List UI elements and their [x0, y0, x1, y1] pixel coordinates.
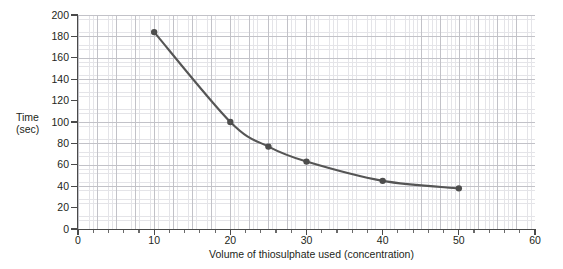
y-axis-tick	[71, 79, 77, 80]
y-axis-tick-label: 60	[31, 159, 69, 170]
x-axis-tick-minor	[443, 230, 444, 233]
y-axis-tick-label: 40	[31, 181, 69, 192]
x-axis-tick-minor	[215, 230, 216, 233]
x-axis-tick-label: 60	[515, 234, 555, 246]
y-axis-tick-label: 80	[31, 138, 69, 149]
data-series-layer	[78, 15, 535, 229]
x-axis-tick-minor	[336, 230, 337, 233]
y-axis-tick-label: 160	[31, 52, 69, 63]
data-point-marker	[151, 29, 157, 35]
x-axis-tick-minor	[352, 230, 353, 233]
y-axis-tick	[71, 121, 77, 122]
x-axis-tick-minor	[321, 230, 322, 233]
data-point-marker	[265, 143, 271, 149]
y-axis-tick	[71, 143, 77, 144]
y-axis-tick-label: 140	[31, 74, 69, 85]
y-axis-line	[77, 14, 78, 230]
y-axis-tick-label: 200	[31, 10, 69, 21]
y-axis-tick-label: 20	[31, 202, 69, 213]
x-axis-tick-label: 40	[363, 234, 403, 246]
x-axis-tick-labels: 0102030405060	[0, 234, 563, 248]
x-axis-tick-minor	[504, 230, 505, 233]
y-axis-tick-label: 0	[31, 224, 69, 235]
series-markers	[151, 29, 462, 192]
chart-container: 020406080100120140160180200 010203040506…	[0, 0, 563, 269]
y-axis-title: Time (sec)	[16, 112, 64, 135]
x-axis-tick-minor	[473, 230, 474, 233]
data-point-marker	[303, 158, 309, 164]
x-axis-tick-minor	[199, 230, 200, 233]
x-axis-tick-minor	[123, 230, 124, 233]
plot-area	[78, 15, 535, 229]
y-axis-tick	[71, 14, 77, 15]
x-axis-tick-minor	[245, 230, 246, 233]
y-axis-tick	[71, 100, 77, 101]
y-axis-tick-label: 180	[31, 31, 69, 42]
series-curve	[154, 32, 459, 188]
x-axis-tick-label: 20	[210, 234, 250, 246]
y-axis-tick	[71, 186, 77, 187]
y-axis-title-line-2: (sec)	[16, 124, 64, 136]
y-axis-title-line-1: Time	[16, 112, 64, 124]
x-axis-tick-minor	[138, 230, 139, 233]
x-axis-tick-label: 50	[439, 234, 479, 246]
x-axis-title-text: Volume of thiosulphate used (concentrati…	[149, 248, 414, 260]
x-axis-tick-minor	[413, 230, 414, 233]
x-axis-tick-minor	[169, 230, 170, 233]
y-axis-tick	[71, 207, 77, 208]
x-axis-tick-minor	[397, 230, 398, 233]
data-point-marker	[227, 119, 233, 125]
y-axis-tick	[71, 36, 77, 37]
x-axis-tick-label: 0	[58, 234, 98, 246]
x-axis-tick-minor	[519, 230, 520, 233]
x-axis-tick-minor	[184, 230, 185, 233]
x-axis-tick-minor	[367, 230, 368, 233]
x-axis-title: Volume of thiosulphate used (concentrati…	[0, 248, 563, 260]
data-point-marker	[456, 185, 462, 191]
x-axis-tick-label: 10	[134, 234, 174, 246]
x-axis-tick-minor	[108, 230, 109, 233]
x-axis-tick-minor	[489, 230, 490, 233]
x-axis-tick-label: 30	[287, 234, 327, 246]
y-axis-tick-label: 120	[31, 95, 69, 106]
data-point-marker	[379, 178, 385, 184]
y-axis-tick	[71, 228, 77, 229]
x-axis-tick-minor	[428, 230, 429, 233]
x-axis-tick-minor	[260, 230, 261, 233]
x-axis-tick-minor	[275, 230, 276, 233]
y-axis-tick	[71, 57, 77, 58]
x-axis-tick-minor	[93, 230, 94, 233]
x-axis-tick-minor	[291, 230, 292, 233]
y-axis-tick	[71, 164, 77, 165]
